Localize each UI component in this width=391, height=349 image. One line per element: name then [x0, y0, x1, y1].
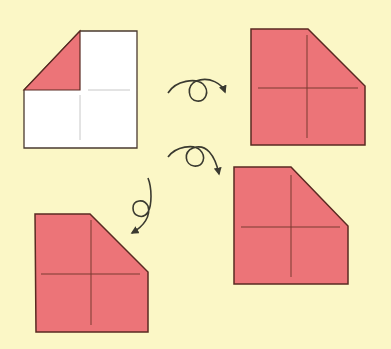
paper-colored — [251, 29, 365, 145]
folded-triangle — [24, 31, 80, 90]
step-2-colored-square — [251, 29, 365, 145]
origami-diagram — [0, 0, 391, 349]
turn-over-arrow-icon — [168, 79, 225, 101]
step-1-white-square — [24, 31, 137, 148]
step-4-colored-square — [35, 214, 148, 332]
turn-over-arrow-icon — [168, 147, 219, 174]
turn-over-arrow-icon — [132, 178, 151, 233]
step-3-colored-square — [234, 167, 348, 284]
